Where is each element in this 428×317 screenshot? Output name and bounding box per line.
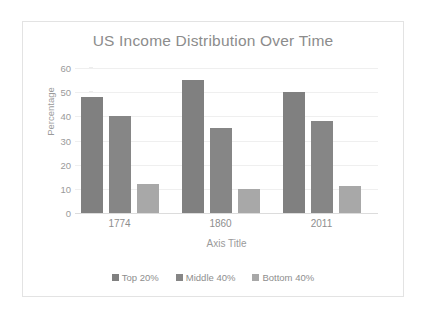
x-axis-title: Axis Title — [75, 238, 378, 249]
plot-area — [75, 68, 378, 213]
bar[interactable] — [238, 189, 260, 213]
legend-swatch-icon — [252, 274, 259, 281]
x-axis-line — [75, 213, 378, 214]
legend-item[interactable]: Top 20% — [112, 272, 159, 283]
y-axis-tick-label: 60 — [41, 63, 71, 74]
x-axis-tick-label: 2011 — [311, 218, 333, 229]
bar-group — [176, 68, 277, 213]
legend-swatch-icon — [176, 274, 183, 281]
chart-frame: US Income Distribution Over Time Percent… — [22, 21, 404, 297]
bar[interactable] — [311, 121, 333, 213]
legend-label: Top 20% — [122, 272, 159, 283]
y-axis-tick-label: 50 — [41, 87, 71, 98]
y-axis-tick-label: 20 — [41, 159, 71, 170]
legend-item[interactable]: Bottom 40% — [252, 272, 314, 283]
chart-legend: Top 20%Middle 40%Bottom 40% — [23, 272, 403, 283]
legend-label: Bottom 40% — [262, 272, 314, 283]
legend-item[interactable]: Middle 40% — [176, 272, 236, 283]
bar[interactable] — [339, 186, 361, 213]
y-axis-tick-label: 30 — [41, 135, 71, 146]
bar[interactable] — [283, 92, 305, 213]
bar[interactable] — [210, 128, 232, 213]
y-axis-tick-label: 40 — [41, 111, 71, 122]
bar[interactable] — [182, 80, 204, 213]
bar[interactable] — [109, 116, 131, 213]
bar-group — [277, 68, 378, 213]
bar[interactable] — [137, 184, 159, 213]
legend-label: Middle 40% — [186, 272, 236, 283]
chart-title: US Income Distribution Over Time — [23, 32, 403, 50]
x-axis-tick-label: 1774 — [108, 218, 130, 229]
bar-group — [75, 68, 176, 213]
y-axis-tick-label: 10 — [41, 183, 71, 194]
y-axis-tick-labels: 0102030405060 — [41, 68, 71, 213]
bar[interactable] — [81, 97, 103, 213]
legend-swatch-icon — [112, 274, 119, 281]
x-axis-tick-labels: 177418602011 — [75, 218, 378, 232]
x-axis-tick-label: 1860 — [209, 218, 231, 229]
y-axis-tick-label: 0 — [41, 208, 71, 219]
